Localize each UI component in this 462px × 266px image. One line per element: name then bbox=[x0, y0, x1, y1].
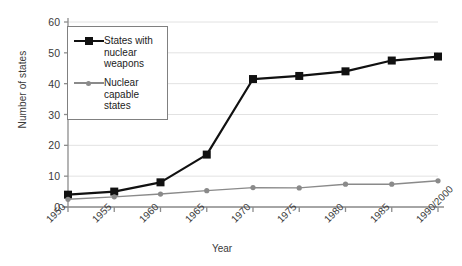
legend-entry-1: Nuclear capable states bbox=[74, 77, 139, 112]
x-axis-label: Year bbox=[0, 243, 462, 254]
y-tick-40: 40 bbox=[26, 79, 60, 89]
legend-swatch-nuclear-capable-states bbox=[74, 77, 104, 89]
legend-swatch-states-with-nuclear-weapons bbox=[74, 35, 104, 47]
y-tick-60: 60 bbox=[26, 17, 60, 27]
legend-label-0: States with nuclear weapons bbox=[104, 35, 153, 70]
y-tick-20: 20 bbox=[26, 140, 60, 150]
chart-legend: States with nuclear weapons Nuclear capa… bbox=[67, 26, 168, 120]
legend-label-1: Nuclear capable states bbox=[104, 77, 139, 112]
y-tick-50: 50 bbox=[26, 48, 60, 58]
y-tick-10: 10 bbox=[26, 171, 60, 181]
y-tick-30: 30 bbox=[26, 110, 60, 120]
x-axis-label-text: Year bbox=[212, 243, 232, 254]
nuclear-states-line-chart: Number of states Year 6050403020100 1950… bbox=[0, 0, 462, 266]
y-axis-label: Number of states bbox=[17, 20, 28, 160]
legend-entry-0: States with nuclear weapons bbox=[74, 35, 153, 70]
